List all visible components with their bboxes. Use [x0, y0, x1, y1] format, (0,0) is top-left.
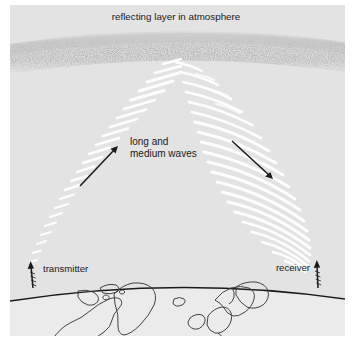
diagram-canvas: reflecting layer in atmosphere long and … — [0, 0, 353, 346]
waves-label-line1: long and — [130, 136, 168, 147]
receiver-label: receiver — [276, 262, 311, 273]
title-label: reflecting layer in atmosphere — [112, 11, 241, 22]
diagram-figure: reflecting layer in atmosphere long and … — [0, 0, 353, 346]
transmitter-label: transmitter — [43, 263, 89, 274]
waves-label-line2: medium waves — [130, 148, 197, 159]
